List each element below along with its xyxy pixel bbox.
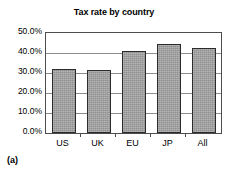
bar-slot: [81, 33, 116, 133]
chart-title: Tax rate by country: [0, 7, 228, 18]
x-axis-tick: [185, 133, 186, 137]
y-axis-tick-label: 50.0%: [3, 27, 45, 36]
x-axis-label-us: US: [43, 138, 83, 149]
x-axis-label-jp: JP: [148, 138, 188, 149]
bar-slot: [116, 33, 151, 133]
bar-slot: [186, 33, 221, 133]
x-axis-tick: [115, 133, 116, 137]
bar-us[interactable]: [52, 69, 76, 133]
x-axis-label-eu: EU: [113, 138, 153, 149]
figure-caption: (a): [7, 155, 18, 166]
bar-all[interactable]: [192, 48, 216, 133]
x-axis-tick: [80, 133, 81, 137]
x-axis-tick: [150, 133, 151, 137]
x-axis-label-uk: UK: [78, 138, 118, 149]
y-axis-tick-label: 10.0%: [3, 107, 45, 116]
bar-eu[interactable]: [122, 51, 146, 133]
bar-jp[interactable]: [157, 44, 181, 133]
y-axis-tick-label: 0.0%: [3, 127, 45, 136]
bar-series: [46, 33, 221, 133]
y-axis-tick-label: 20.0%: [3, 87, 45, 96]
plot-area: [45, 32, 222, 134]
bar-slot: [151, 33, 186, 133]
bar-slot: [46, 33, 81, 133]
y-axis-tick-label: 30.0%: [3, 67, 45, 76]
x-axis-label-all: All: [183, 138, 223, 149]
y-axis-tick-label: 40.0%: [3, 47, 45, 56]
figure-panel-a: Tax rate by country 0.0%10.0%20.0%30.0%4…: [0, 0, 228, 176]
bar-uk[interactable]: [87, 70, 111, 133]
